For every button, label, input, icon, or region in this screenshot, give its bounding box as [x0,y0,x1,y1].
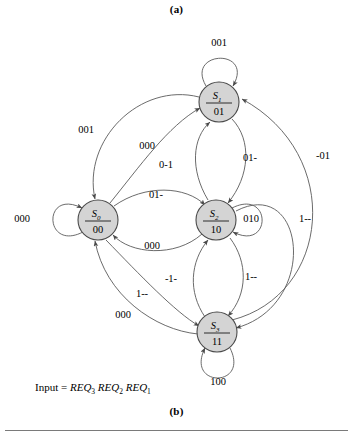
caption-term-3: REQ [126,381,147,393]
edge-label-s0-s0: 000 [14,213,30,224]
input-definition-caption: Input = REQ3 REQ2 REQ1 [35,381,151,396]
edge-label-s3-s0: 000 [115,309,131,320]
state-code-s2: 10 [211,224,222,235]
edge-label-s3-s1: -01 [316,150,330,161]
edge-label-s2-s3: 1-- [245,271,258,282]
edge-label-s3-s2: -1- [165,273,178,284]
state-diagram-figure: (a) [0,0,353,439]
edge-label-s1-s1: 001 [211,37,227,48]
edge-label-s0-s1: 000 [139,140,155,151]
edge-label-s2-s2: 010 [243,213,259,224]
edge-label-s1-s2: 01- [243,152,258,163]
edge-s2-s1 [195,122,210,200]
edge-label-s2-s1: 0-1 [159,159,173,170]
edge-label-s2-s0: 000 [144,240,160,251]
edge-label-s0-s3-outer: 1-- [299,213,312,224]
caption-sub-2: 2 [119,387,123,396]
caption-term-2: REQ [98,381,119,393]
state-node-s3[interactable]: S3 11 [197,312,237,352]
edge-label-s3-s3: 100 [210,376,226,387]
state-code-s1: 01 [214,106,225,117]
panel-label-b: (b) [0,405,353,417]
state-node-s0[interactable]: S0 00 [78,200,118,240]
edge-s3-s2 [193,240,208,317]
figure-bottom-rule [5,430,348,431]
caption-sub-1: 3 [91,387,95,396]
edge-label-s0-s3-inner: 1-- [136,288,149,299]
state-node-s2[interactable]: S2 10 [196,200,236,240]
node-layer: S0 00 S1 01 S2 10 [78,82,239,352]
state-node-s1[interactable]: S1 01 [199,82,239,122]
edge-s3-s1 [232,99,313,320]
state-transition-diagram: S0 00 S1 01 S2 10 [0,0,353,439]
state-code-s3: 11 [212,336,222,347]
edge-label-s0-s2: 01- [149,189,164,200]
edge-label-s1-s0: 001 [78,124,94,135]
edge-s2-s3 [228,238,243,316]
edge-label-layer: 001 000 010 100 001 000 0-1 01- -01 01- … [14,37,330,387]
caption-sub-3: 1 [147,387,151,396]
caption-prefix: Input = [35,381,70,393]
state-code-s0: 00 [93,224,104,235]
caption-term-1: REQ [70,381,91,393]
